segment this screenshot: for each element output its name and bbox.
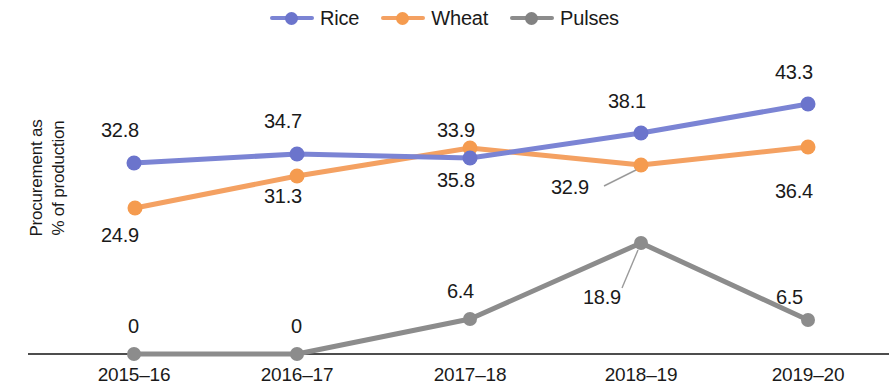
value-label-wheat-2019-20: 36.4 <box>775 181 813 201</box>
x-tick-2018-19: 2018–19 <box>566 364 716 386</box>
x-tick-2015-16: 2015–16 <box>59 364 209 386</box>
value-label-pulses-2019-20: 6.5 <box>776 287 803 307</box>
value-label-pulses-2017-18: 6.4 <box>447 281 474 301</box>
leader-line-pulses-2018-19 <box>622 250 638 288</box>
chart-container: Rice Wheat Pulses Procurement as % of pr… <box>0 0 889 390</box>
value-label-rice-2019-20: 43.3 <box>775 62 813 82</box>
value-label-pulses-2015-16: 0 <box>128 316 139 336</box>
value-label-wheat-2018-19: 32.9 <box>551 177 589 197</box>
x-tick-2017-18: 2017–18 <box>395 364 545 386</box>
value-label-rice-2016-17: 34.7 <box>264 111 302 131</box>
value-label-rice-2018-19: 38.1 <box>608 91 646 111</box>
leader-line-wheat-2018-19 <box>604 170 636 186</box>
x-tick-2016-17: 2016–17 <box>222 364 372 386</box>
value-label-pulses-2016-17: 0 <box>291 316 302 336</box>
value-label-rice-2015-16: 32.8 <box>101 120 139 140</box>
x-tick-2019-20: 2019–20 <box>733 364 883 386</box>
value-label-pulses-2018-19: 18.9 <box>583 287 621 307</box>
value-label-wheat-2015-16: 24.9 <box>101 225 139 245</box>
value-label-wheat-2016-17: 31.3 <box>264 186 302 206</box>
value-label-rice-2017-18: 35.8 <box>437 170 475 190</box>
value-label-wheat-2017-18: 33.9 <box>437 120 475 140</box>
